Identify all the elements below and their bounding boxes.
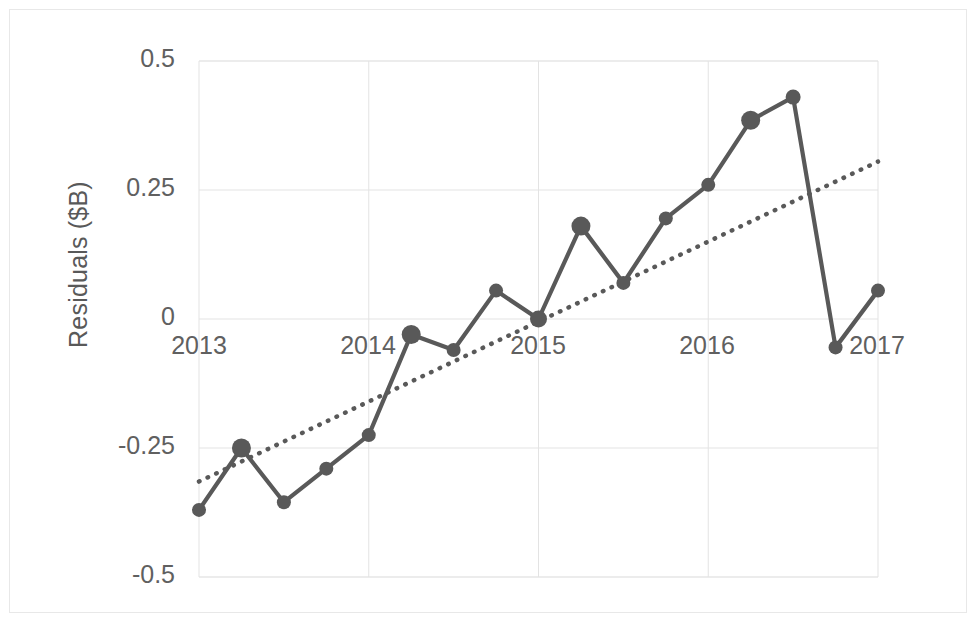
plot-area (0, 0, 978, 628)
data-point-marker (659, 211, 673, 225)
data-point-marker (232, 439, 251, 458)
data-point-marker (786, 90, 801, 105)
data-point-marker (741, 111, 760, 130)
data-point-marker (277, 495, 291, 509)
data-point-marker (871, 284, 885, 298)
data-point-marker (489, 284, 503, 298)
data-point-marker (701, 178, 715, 192)
data-point-marker (829, 340, 843, 354)
data-point-marker (319, 462, 333, 476)
data-point-marker (616, 276, 630, 290)
data-point-marker (571, 217, 590, 236)
data-point-marker (192, 503, 206, 517)
data-point-marker (362, 428, 376, 442)
chart-container: Residuals ($B) 0.5 0.25 0 -0.25 -0.5 201… (0, 0, 978, 628)
data-point-marker (530, 311, 547, 328)
data-point-marker (402, 325, 421, 344)
data-point-marker (447, 343, 461, 357)
